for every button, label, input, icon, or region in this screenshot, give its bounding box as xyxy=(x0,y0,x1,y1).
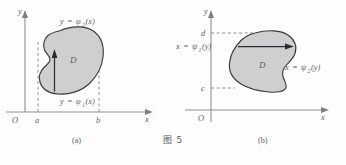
figure-container: y = φ 2 (x) y = φ 1 (x) D y x O a b xyxy=(0,0,346,165)
panel-a-tick-a-label: a xyxy=(35,116,39,125)
panel-a-lower-curve-label: y = φ 1 (x) xyxy=(59,97,95,108)
panel-b-y-axis xyxy=(208,10,214,122)
panel-b-tick-c-label: c xyxy=(201,84,205,93)
panel-b-left-equals: = xyxy=(183,42,189,51)
panel-b-origin-label: O xyxy=(198,114,204,123)
panel-b-right-lead: x xyxy=(284,63,289,72)
panel-b-right-arg: (y) xyxy=(311,63,321,72)
panel-b-left-curve-label: x = ψ 1 (y) xyxy=(175,42,212,53)
panel-b-right-fn: ψ xyxy=(301,63,307,72)
panel-a-origin-label: O xyxy=(12,116,18,125)
panel-a-upper-lead: y xyxy=(59,17,64,26)
panel-a-upper-curve-label: y = φ 2 (x) xyxy=(59,17,95,28)
panel-a-region-label: D xyxy=(69,55,77,65)
panel-b-y-axis-label: y xyxy=(203,6,208,16)
panel-a-lower-fn: φ xyxy=(76,97,81,106)
panel-a-x-axis-label: x xyxy=(144,114,149,124)
panel-a-y-axis-label: y xyxy=(17,6,22,16)
panel-a-y-axis xyxy=(22,10,28,112)
panel-a-upper-equals: = xyxy=(67,17,73,26)
panel-b-region-label: D xyxy=(258,60,266,70)
figure-caption-row: 图 5 xyxy=(0,133,346,165)
panel-a-upper-fn: φ xyxy=(76,17,81,26)
panel-a-upper-arg: (x) xyxy=(86,17,96,26)
panel-b-x-axis xyxy=(185,107,329,113)
panel-b-right-equals: = xyxy=(292,63,298,72)
panel-b-left-lead: x xyxy=(175,42,180,51)
panel-a-tick-b-label: b xyxy=(96,116,100,125)
panel-b-left-arg: (y) xyxy=(202,42,212,51)
panel-a-lower-lead: y xyxy=(59,97,64,106)
panel-a-x-type-region: y = φ 2 (x) y = φ 1 (x) D y x O a b xyxy=(0,0,173,150)
panel-b-y-type-region: x = ψ 1 (y) x = ψ 2 (y) D y x O d c xyxy=(173,0,346,150)
panel-a-x-axis xyxy=(6,109,153,115)
panel-a-lower-equals: = xyxy=(67,97,73,106)
panel-b-right-curve-label: x = ψ 2 (y) xyxy=(284,63,321,74)
panel-b-tick-d-label: d xyxy=(201,29,206,38)
panel-a-lower-arg: (x) xyxy=(86,97,96,106)
figure-caption: 图 5 xyxy=(0,133,346,146)
panel-b-x-axis-label: x xyxy=(320,112,325,122)
panel-b-left-fn: ψ xyxy=(192,42,198,51)
